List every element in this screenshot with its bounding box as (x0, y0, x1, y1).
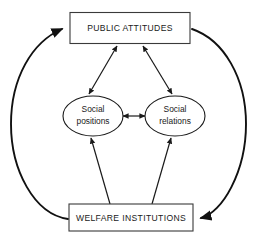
social-relations-label-line2: relations (159, 116, 191, 126)
social-positions-label-line2: positions (76, 116, 109, 126)
node-social-positions[interactable]: Social positions (63, 96, 123, 136)
edge-welfare-institutions-to-social-relations (152, 138, 171, 204)
welfare-institutions-label: WELFARE INSTITUTIONS (76, 213, 186, 223)
edge-public-attitudes-to-social-positions (89, 46, 117, 94)
edge-public-attitudes-to-social-relations (143, 46, 172, 94)
feedback-model-diagram: PUBLIC ATTITUDES WELFARE INSTITUTIONS So… (0, 0, 269, 241)
social-positions-label-line1: Social (82, 104, 105, 114)
diagram-canvas: PUBLIC ATTITUDES WELFARE INSTITUTIONS So… (0, 0, 269, 241)
social-relations-label-line1: Social (164, 104, 187, 114)
node-public-attitudes[interactable]: PUBLIC ATTITUDES (70, 13, 190, 44)
node-social-relations[interactable]: Social relations (145, 96, 205, 136)
node-welfare-institutions[interactable]: WELFARE INSTITUTIONS (69, 204, 193, 231)
public-attitudes-label: PUBLIC ATTITUDES (87, 23, 173, 33)
edge-welfare-institutions-to-public-attitudes (11, 29, 68, 219)
edge-welfare-institutions-to-social-positions (91, 138, 110, 204)
